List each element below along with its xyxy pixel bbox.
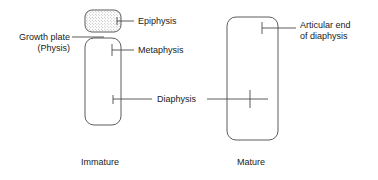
caption-mature: Mature	[237, 157, 265, 167]
articular-end-label-line1: Articular end	[300, 20, 351, 31]
growth-plate-label-line1: Growth plate	[0, 32, 70, 43]
immature-epiphysis-shape	[85, 10, 121, 32]
caption-immature: Immature	[81, 157, 119, 167]
diaphysis-label: Diaphysis	[157, 94, 196, 105]
mature-shaft-shape	[227, 17, 278, 140]
articular-end-label-line2: of diaphysis	[300, 31, 348, 42]
growth-plate-label-line2: (Physis)	[0, 43, 70, 54]
epiphysis-label: Epiphysis	[138, 16, 177, 27]
metaphysis-label: Metaphysis	[138, 45, 184, 56]
immature-shaft-shape	[85, 38, 121, 125]
bone-development-diagram: Epiphysis Metaphysis Growth plate (Physi…	[0, 0, 378, 180]
